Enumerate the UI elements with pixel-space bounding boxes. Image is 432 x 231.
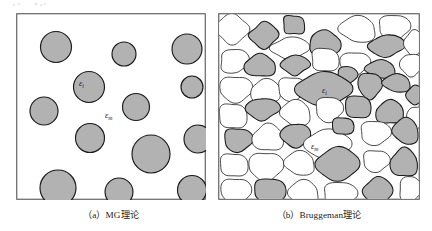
matrix-grain [312,48,339,71]
caption-panel-a: （a）MG理论 [16,207,206,221]
panel-bruggeman-theory: εiεm [218,13,420,200]
inclusion-circle [123,94,150,121]
inclusion-circle [41,32,72,63]
matrix-grain [400,177,420,200]
inclusion-circle [40,170,76,200]
caption-panel-b: （b）Bruggeman理论 [218,207,420,221]
panel-mg-theory: εiεm [16,13,206,200]
inclusion-circle [105,178,133,200]
scan-artifact [6,1,52,8]
matrix-grain [220,154,248,176]
inclusion-circle [172,34,202,64]
inclusion-circle [112,42,136,66]
mg-theory-diagram: εiεm [16,13,206,200]
matrix-grain [221,179,252,200]
inclusion-circle [132,135,170,173]
inclusion-circle [76,124,105,153]
inclusion-grain [332,118,354,134]
inclusion-grain [346,96,372,118]
inclusion-circle [184,125,206,153]
inclusion-grain [255,179,286,200]
bruggeman-theory-diagram: εiεm [218,13,420,200]
inclusion-circle [181,76,203,98]
matrix-grain [219,104,247,128]
inclusion-circle [30,97,58,125]
inclusion-circle [178,176,207,201]
figure-root: εiεm εiεm （a）MG理论 （b）Bruggeman理论 [0,0,432,231]
inclusion-grain [283,15,304,34]
